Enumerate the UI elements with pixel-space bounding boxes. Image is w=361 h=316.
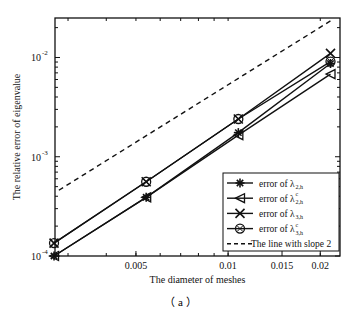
x-tick-label: 0.02 [312, 260, 330, 271]
marker-circle-x [50, 239, 59, 248]
marker-circle-x [234, 115, 243, 124]
y-tick-label: 10 [31, 251, 41, 262]
legend-label-subscript: 2,h [296, 184, 304, 190]
legend-label-superscript: c [296, 191, 299, 197]
legend-label: error of λ [259, 209, 295, 219]
y-tick-exponent: -2 [42, 49, 48, 57]
x-tick-label: 0.015 [271, 260, 294, 271]
legend-label: error of λ [259, 179, 295, 189]
legend-label-subscript: 2,h [296, 199, 304, 205]
y-tick-label: 10 [31, 152, 41, 163]
legend-label-superscript: c [296, 222, 299, 228]
x-tick-label: 0.01 [219, 260, 237, 271]
y-tick-exponent: -3 [42, 149, 48, 157]
y-tick-label: 10 [31, 52, 41, 63]
marker-circle-x [142, 177, 151, 186]
legend-label-subscript: 3,h [296, 214, 304, 220]
figure-caption: （ a ） [0, 293, 361, 309]
marker-star [236, 179, 245, 188]
y-axis-title: The relative error of eigenvalue [11, 73, 22, 200]
y-tick-exponent: -4 [42, 248, 48, 256]
legend-label-subscript: 3,h [296, 230, 304, 236]
legend: error of λ2,herror of λc2,herror of λ3,h… [223, 173, 339, 251]
x-axis-title: The diameter of meshes [150, 274, 246, 285]
legend-label: error of λ [259, 194, 295, 204]
chart: 0.0050.010.0150.0210-410-310-2 The diame… [0, 0, 361, 290]
legend-label: The line with slope 2 [251, 239, 331, 249]
x-tick-label: 0.005 [125, 260, 148, 271]
legend-item: error of λc3,h [227, 222, 303, 236]
legend-label: error of λ [259, 224, 295, 234]
